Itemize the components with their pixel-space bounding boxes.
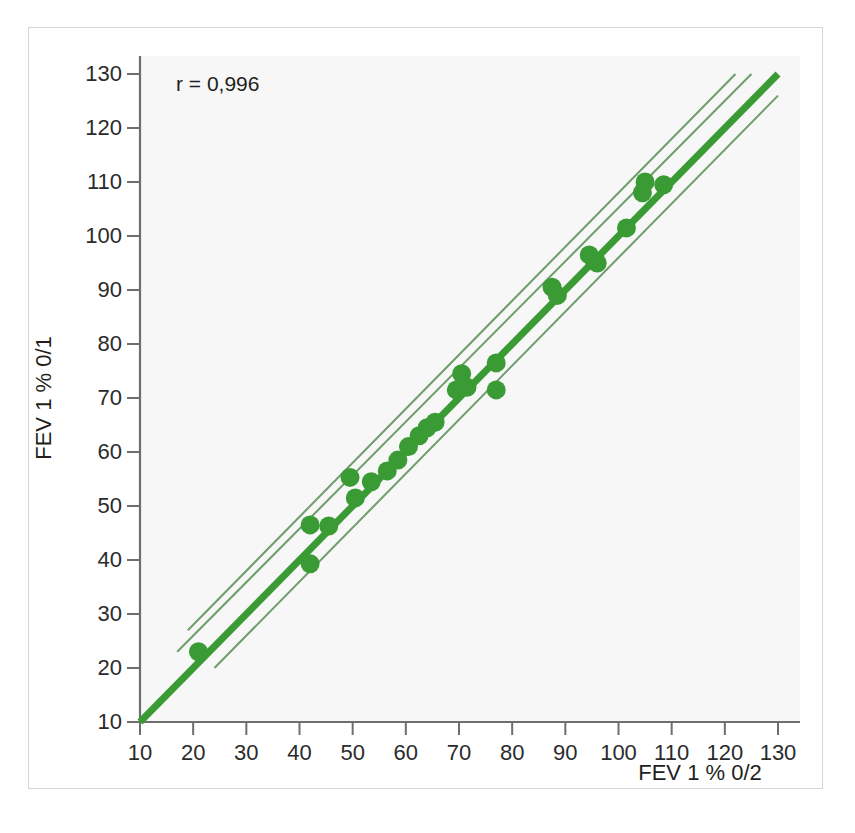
y-axis-title: FEV 1 % 0/1 xyxy=(31,336,57,460)
data-point xyxy=(636,173,655,192)
scatter-plot-canvas xyxy=(0,0,855,833)
x-axis-tick-label: 10 xyxy=(128,740,152,766)
y-axis-tick-label: 60 xyxy=(60,439,122,465)
data-point xyxy=(487,380,506,399)
data-point xyxy=(548,286,567,305)
x-axis-tick-label: 30 xyxy=(234,740,258,766)
data-point xyxy=(362,472,381,491)
y-axis-tick-label: 120 xyxy=(60,115,122,141)
y-axis-tick-label: 30 xyxy=(60,601,122,627)
x-axis-tick-label: 70 xyxy=(447,740,471,766)
x-axis-tick-label: 100 xyxy=(600,740,637,766)
data-point xyxy=(319,516,338,535)
y-axis-tick-label: 10 xyxy=(60,709,122,735)
y-axis-tick-label: 50 xyxy=(60,493,122,519)
data-point xyxy=(617,218,636,237)
data-point xyxy=(487,353,506,372)
y-axis-tick-label: 40 xyxy=(60,547,122,573)
x-axis-tick-label: 20 xyxy=(181,740,205,766)
y-axis-tick-label: 90 xyxy=(60,277,122,303)
y-axis-tick-label: 80 xyxy=(60,331,122,357)
x-axis-tick-label: 80 xyxy=(500,740,524,766)
y-axis-tick-label: 110 xyxy=(60,169,122,195)
data-point xyxy=(301,515,320,534)
x-axis-tick-label: 60 xyxy=(394,740,418,766)
data-point xyxy=(654,175,673,194)
data-point xyxy=(346,488,365,507)
data-point xyxy=(588,254,607,273)
data-point xyxy=(341,468,360,487)
data-point xyxy=(457,378,476,397)
y-axis-tick-label: 70 xyxy=(60,385,122,411)
x-axis-tick-label: 40 xyxy=(287,740,311,766)
x-axis-tick-label: 50 xyxy=(340,740,364,766)
x-axis-tick-label: 130 xyxy=(760,740,797,766)
y-axis-tick-label: 100 xyxy=(60,223,122,249)
data-point xyxy=(426,413,445,432)
correlation-annotation: r = 0,996 xyxy=(176,72,259,96)
data-point xyxy=(189,642,208,661)
x-axis-tick-label: 90 xyxy=(553,740,577,766)
x-axis-title: FEV 1 % 0/2 xyxy=(638,760,762,786)
figure-root: 1020304050607080901001101201301020304050… xyxy=(0,0,855,833)
data-point xyxy=(301,554,320,573)
y-axis-tick-label: 20 xyxy=(60,655,122,681)
y-axis-tick-label: 130 xyxy=(60,61,122,87)
